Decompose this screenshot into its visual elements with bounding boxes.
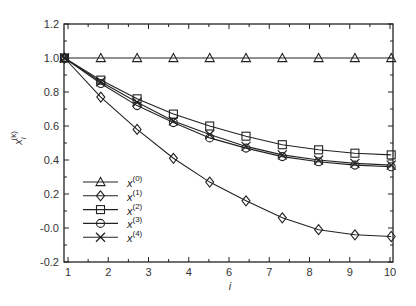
- legend-label: x(0): [126, 174, 143, 189]
- series-line: [65, 58, 392, 167]
- legend-label: x(4): [126, 229, 143, 244]
- series-diamond: [61, 53, 396, 242]
- y-axis-label-sup: (k): [9, 131, 18, 141]
- x-tick-label: 9: [347, 266, 353, 278]
- legend-label: x(1): [126, 188, 143, 203]
- y-tick-label: 0.2: [44, 188, 59, 200]
- y-tick-label: -0.0: [40, 222, 59, 234]
- legend: x(0)x(1)x(2)x(3)x(4): [83, 174, 143, 244]
- x-tick-label: 8: [306, 266, 312, 278]
- legend-item: x(4): [83, 229, 143, 244]
- line-chart: 1.21.00.80.60.40.2-0.0-0.2 1234678910 x(…: [0, 0, 416, 306]
- x-tick-label: 4: [186, 266, 192, 278]
- series-circle: [61, 54, 396, 171]
- x-tick-label: 10: [384, 266, 396, 278]
- y-tick-label: 1.2: [44, 18, 59, 30]
- x-tick-label: 7: [266, 266, 272, 278]
- x-tick-label: 2: [105, 266, 111, 278]
- y-axis-label-sub: i: [19, 137, 28, 139]
- legend-item: x(0): [83, 174, 143, 189]
- y-tick-label: 0.8: [44, 86, 59, 98]
- x-tick-label: 6: [226, 266, 232, 278]
- legend-item: x(2): [83, 202, 143, 217]
- chart-canvas: 1.21.00.80.60.40.2-0.0-0.2 1234678910 x(…: [0, 0, 416, 306]
- series-line: [65, 58, 392, 165]
- x-axis: 1234678910: [65, 24, 396, 278]
- legend-label: x(2): [126, 202, 143, 217]
- y-tick-label: -0.2: [40, 256, 59, 268]
- y-tick-label: 0.4: [44, 154, 59, 166]
- y-tick-label: 0.6: [44, 120, 59, 132]
- y-tick-label: 1.0: [44, 52, 59, 64]
- series-layer: [60, 53, 396, 242]
- x-tick-label: 3: [145, 266, 151, 278]
- y-axis: 1.21.00.80.60.40.2-0.0-0.2: [40, 18, 393, 268]
- series-triangle: [60, 54, 396, 62]
- x-tick-label: 1: [65, 266, 71, 278]
- legend-item: x(1): [83, 188, 143, 203]
- x-axis-label: i: [229, 280, 232, 292]
- legend-item: x(3): [83, 215, 143, 230]
- svg-text:xi(k): xi(k): [9, 131, 28, 146]
- legend-label: x(3): [126, 215, 143, 230]
- y-axis-label: xi(k): [9, 131, 28, 146]
